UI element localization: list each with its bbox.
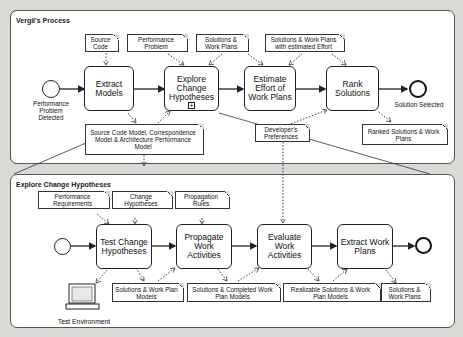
laptop-icon bbox=[66, 284, 99, 309]
doc-solutions-estimated-effort: Solutions & Work Plans with estimated Ef… bbox=[265, 34, 345, 52]
doc-realizable-solutions: Realizable Solutions & Work Plan Models bbox=[283, 283, 381, 302]
start-event bbox=[42, 80, 60, 98]
doc-solutions-work-plan-models: Solutions & Work Plan Models bbox=[112, 283, 184, 302]
doc-models: Source Code Model, Correspondence Model … bbox=[85, 124, 204, 155]
end-event-label: Solution Selected bbox=[394, 101, 444, 108]
task-evaluate-work-activities: Evaluate Work Activities bbox=[257, 224, 312, 269]
subprocess-marker-icon: + bbox=[188, 102, 195, 109]
doc-solutions-work-plans: Solutions & Work Plans bbox=[381, 283, 431, 302]
doc-developer-preferences: Developer's Preferences bbox=[255, 124, 310, 142]
test-environment-label: Test Environment bbox=[56, 318, 112, 325]
doc-performance-problem: Performance Problem bbox=[127, 34, 188, 52]
doc-source-code: Source Code bbox=[85, 34, 119, 52]
task-rank-solutions: Rank Solutions bbox=[326, 66, 379, 111]
task-extract-work-plans: Extract Work Plans bbox=[337, 224, 393, 269]
doc-solutions-completed: Solutions & Completed Work Plan Models bbox=[187, 283, 281, 302]
start-event bbox=[54, 238, 71, 255]
end-event bbox=[409, 80, 427, 98]
doc-ranked-solutions: Ranked Solutions & Work Plans bbox=[362, 124, 448, 145]
task-test-change-hypotheses: Test Change Hypotheses bbox=[96, 224, 152, 269]
doc-solutions-work-plans: Solutions & Work Plans bbox=[196, 34, 249, 52]
doc-performance-requirements: Performance Requirements bbox=[38, 191, 110, 209]
start-event-label: Performance Problem Detected bbox=[30, 100, 72, 121]
doc-change-hypotheses: Change Hypotheses bbox=[112, 191, 173, 209]
end-event bbox=[415, 237, 432, 254]
task-propagate-work-activities: Propagate Work Activities bbox=[176, 224, 232, 269]
task-estimate-effort: Estimate Effort of Work Plans bbox=[244, 66, 296, 111]
doc-propagation-rules: Propagation Rules bbox=[175, 191, 230, 209]
task-extract-models: Extract Models bbox=[84, 66, 134, 111]
